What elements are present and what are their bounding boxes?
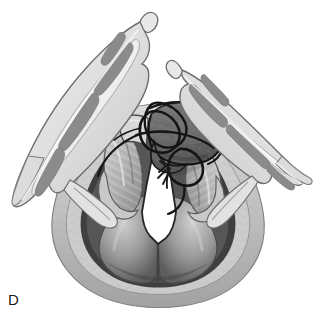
panel-label: D xyxy=(8,292,19,307)
laryngeal-surgical-illustration xyxy=(0,0,316,324)
figure-panel: D xyxy=(0,0,316,324)
